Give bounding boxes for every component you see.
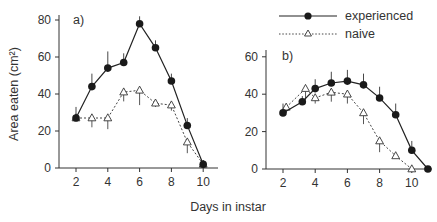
y-tick-label: 40 (245, 87, 259, 101)
x-tick-label: 10 (405, 176, 419, 190)
open-triangle-marker (168, 101, 176, 108)
open-triangle-marker (344, 90, 352, 97)
panel-b-series (279, 70, 432, 173)
open-triangle-marker (136, 86, 144, 93)
open-triangle-marker (360, 109, 368, 116)
filled-circle-marker (72, 114, 80, 122)
y-tick-label: 60 (245, 50, 259, 64)
open-triangle-marker (327, 88, 335, 95)
filled-circle-marker (424, 165, 432, 173)
x-tick-label: 4 (312, 176, 319, 190)
legend: experienced naive (279, 9, 413, 41)
filled-circle-marker (344, 77, 352, 85)
y-axis-title: Area eaten (cm²) (7, 47, 21, 141)
filled-circle-marker (152, 44, 160, 52)
x-tick-label: 8 (376, 176, 383, 190)
filled-circle-marker (408, 147, 416, 155)
panel-a: 020406080246810 a) (38, 13, 218, 189)
open-triangle-marker (88, 114, 96, 121)
panel-b-axes: 0204060246810 (245, 50, 432, 190)
panel-b-label: b) (282, 49, 293, 63)
series-line-experienced (283, 81, 428, 169)
x-tick-label: 6 (136, 175, 143, 189)
x-tick-label: 4 (104, 175, 111, 189)
filled-circle-marker (360, 81, 368, 89)
filled-circle-marker (392, 111, 400, 119)
y-tick-label: 0 (44, 161, 51, 175)
filled-circle-marker (311, 85, 319, 93)
filled-circle-marker (299, 98, 307, 106)
filled-circle-marker (104, 64, 112, 72)
legend-label-naive: naive (345, 27, 375, 41)
chart-figure: Area eaten (cm²) Days in instar 02040608… (0, 0, 437, 222)
y-tick-label: 60 (38, 50, 52, 64)
open-triangle-marker (152, 99, 160, 106)
x-tick-label: 2 (73, 175, 80, 189)
filled-circle-marker (376, 94, 384, 102)
y-tick-label: 80 (38, 13, 52, 27)
x-tick-label: 6 (344, 176, 351, 190)
series-experienced (279, 70, 432, 173)
open-triangle-icon (305, 30, 312, 36)
filled-circle-marker (120, 59, 128, 67)
panel-b: 0204060246810 b) (245, 49, 432, 190)
x-tick-label: 8 (168, 175, 175, 189)
legend-item-naive: naive (279, 27, 375, 41)
filled-circle-icon (304, 12, 311, 19)
filled-circle-marker (279, 109, 287, 117)
filled-circle-marker (199, 161, 207, 169)
filled-circle-marker (328, 79, 336, 87)
y-tick-label: 20 (245, 125, 259, 139)
open-triangle-marker (376, 137, 384, 144)
panel-a-series (72, 16, 207, 168)
open-triangle-marker (104, 114, 112, 121)
y-tick-label: 0 (251, 162, 258, 176)
panel-a-label: a) (73, 13, 84, 27)
y-tick-label: 40 (38, 87, 52, 101)
x-tick-label: 10 (197, 175, 211, 189)
open-triangle-marker (183, 138, 191, 145)
legend-item-experienced: experienced (279, 9, 413, 23)
filled-circle-marker (184, 122, 192, 130)
legend-label-experienced: experienced (345, 9, 413, 23)
x-axis-title: Days in instar (190, 200, 266, 214)
y-tick-label: 20 (38, 124, 52, 138)
open-triangle-marker (408, 165, 416, 172)
filled-circle-marker (88, 83, 96, 91)
filled-circle-marker (136, 20, 144, 28)
open-triangle-marker (302, 84, 310, 91)
x-tick-label: 2 (280, 176, 287, 190)
panel-a-axes: 020406080246810 (38, 13, 218, 189)
filled-circle-marker (168, 77, 176, 85)
